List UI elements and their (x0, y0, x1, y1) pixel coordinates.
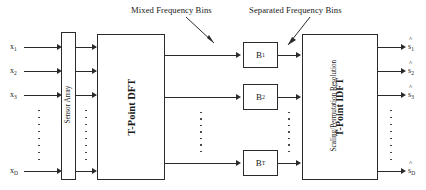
block-bin-B1: B1 (243, 42, 278, 68)
wire-input-D (24, 171, 60, 172)
output-label-sD: sD (408, 167, 415, 176)
block-t-point-dft-caption: T-Point DFT (127, 57, 138, 157)
arrowhead-output-3-icon (401, 92, 406, 98)
block-t-point-dft: T-Point DFT (97, 34, 165, 180)
block-bin-B2: B2 (243, 84, 278, 110)
arrowhead-output-2-icon (401, 68, 406, 74)
arrowhead-b1-icon (236, 52, 241, 58)
block-output-stage: Scaling/Permutation Resolution T-Point I… (302, 34, 378, 180)
block-bin-BT: BT (243, 150, 278, 176)
wire-input-1 (24, 47, 60, 48)
wire-dft-b2 (165, 97, 239, 98)
block-sensor-array: Sensor Array (61, 32, 76, 180)
arrowhead-output-D-icon (401, 168, 406, 174)
figure-canvas: Mixed Frequency Bins Separated Frequency… (0, 0, 426, 190)
pointer-arrow-mixed-icon (186, 17, 222, 51)
block-bin-BT-label: BT (244, 151, 277, 175)
ellipsis-outputs (389, 110, 393, 160)
arrowhead-b2-icon (236, 94, 241, 100)
block-bin-B1-label: B1 (244, 43, 277, 67)
wire-input-2 (24, 71, 60, 72)
ellipsis-inputs (37, 110, 41, 160)
block-bin-B2-label: B2 (244, 85, 277, 109)
ellipsis-bins-stage (287, 112, 291, 152)
arrowhead-stage-3-icon (296, 160, 301, 166)
arrowhead-stage-2-icon (296, 94, 301, 100)
block-sensor-array-caption: Sensor Array (65, 60, 72, 150)
arrowhead-stage-1-icon (296, 52, 301, 58)
output-label-s1: s1 (408, 43, 414, 52)
input-label-x1: x1 (10, 43, 17, 52)
annotation-separated-frequency-bins: Separated Frequency Bins (249, 6, 342, 15)
output-label-s3: s3 (408, 91, 414, 100)
input-label-x2: x2 (10, 67, 17, 76)
arrowhead-output-1-icon (401, 44, 406, 50)
block-output-stage-caption-primary: T-Point IDFT (335, 59, 345, 155)
wire-input-3 (24, 95, 60, 96)
wire-dft-b1 (165, 55, 239, 56)
annotation-mixed-frequency-bins: Mixed Frequency Bins (131, 6, 212, 15)
ellipsis-dft-bins (199, 112, 203, 152)
arrowhead-bT-icon (236, 160, 241, 166)
wire-dft-bT (165, 163, 239, 164)
input-label-xD: xD (10, 167, 18, 176)
ellipsis-sensor-dft (84, 110, 88, 160)
input-label-x3: x3 (10, 91, 17, 100)
output-label-s2: s2 (408, 67, 414, 76)
